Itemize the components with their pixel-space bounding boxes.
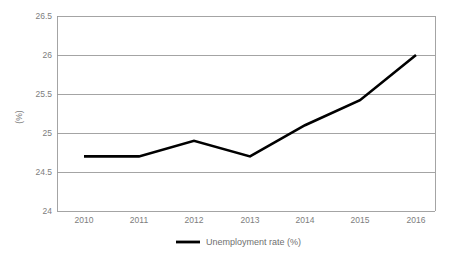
y-tick-label-25: 25 bbox=[43, 128, 53, 138]
line-chart: 26.5 26 25.5 25 24.5 24 (%) 2010 2011 20… bbox=[0, 0, 451, 259]
y-tick-label-24: 24 bbox=[43, 206, 53, 216]
x-tick-label-2016: 2016 bbox=[407, 215, 426, 225]
y-tick-label-24-5: 24.5 bbox=[35, 167, 52, 177]
chart-background bbox=[0, 0, 451, 259]
y-axis-title: (%) bbox=[14, 110, 24, 123]
y-tick-label-25-5: 25.5 bbox=[35, 89, 52, 99]
y-tick-label-26: 26 bbox=[43, 50, 53, 60]
x-tick-label-2011: 2011 bbox=[130, 215, 149, 225]
x-tick-label-2015: 2015 bbox=[351, 215, 370, 225]
x-tick-label-2013: 2013 bbox=[241, 215, 260, 225]
x-tick-label-2010: 2010 bbox=[75, 215, 94, 225]
legend-label-unemployment-rate: Unemployment rate (%) bbox=[206, 237, 301, 247]
x-tick-label-2014: 2014 bbox=[296, 215, 315, 225]
chart-container: 26.5 26 25.5 25 24.5 24 (%) 2010 2011 20… bbox=[0, 0, 451, 259]
y-tick-label-26-5: 26.5 bbox=[35, 11, 52, 21]
x-tick-label-2012: 2012 bbox=[185, 215, 204, 225]
